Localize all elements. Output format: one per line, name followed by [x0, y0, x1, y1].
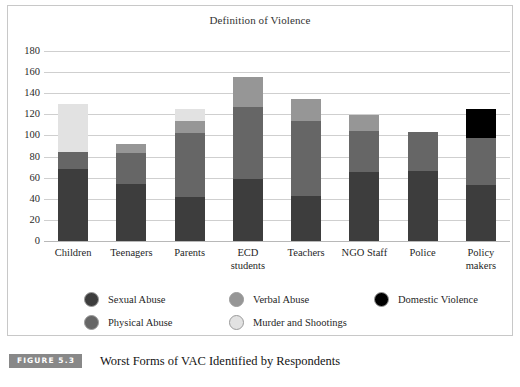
- x-axis-label-line: Parents: [161, 246, 219, 259]
- x-axis-label-line: ECD: [219, 246, 277, 259]
- x-axis-label: Police: [394, 246, 452, 259]
- stacked-bar: [291, 99, 321, 242]
- y-tick-label-100: 100: [6, 130, 40, 141]
- stacked-bar: [175, 109, 205, 241]
- bar-group: [349, 51, 379, 241]
- stacked-bar: [349, 115, 379, 241]
- bar-group: [291, 51, 321, 241]
- bar-segment: [408, 132, 438, 171]
- chart-legend: Sexual AbusePhysical AbuseVerbal AbuseMu…: [44, 292, 494, 336]
- x-axis-label-line: Children: [44, 246, 102, 259]
- y-tick-label-120: 120: [6, 109, 40, 120]
- bar-segment: [58, 169, 88, 241]
- legend-label: Verbal Abuse: [253, 294, 309, 305]
- legend-item[interactable]: Domestic Violence: [374, 292, 478, 307]
- x-axis-label-line: NGO Staff: [335, 246, 393, 259]
- bar-segment: [116, 144, 146, 154]
- y-axis-ticks: 020406080100120140160180: [4, 51, 40, 241]
- bar-segment: [349, 115, 379, 131]
- gridline-0: [44, 241, 510, 242]
- legend-item[interactable]: Physical Abuse: [84, 315, 172, 330]
- stacked-bar: [466, 109, 496, 241]
- bar-segment: [408, 171, 438, 241]
- bar-segment: [116, 184, 146, 241]
- x-axis-label: NGO Staff: [335, 246, 393, 259]
- legend-item[interactable]: Verbal Abuse: [229, 292, 309, 307]
- figure-root: Definition of Violence 02040608010012014…: [0, 0, 520, 387]
- legend-swatch-icon: [229, 315, 244, 330]
- stacked-bar: [408, 132, 438, 241]
- legend-swatch-icon: [229, 292, 244, 307]
- legend-label: Physical Abuse: [108, 317, 172, 328]
- legend-label: Murder and Shootings: [253, 317, 347, 328]
- x-axis-label-line: makers: [452, 259, 510, 272]
- stacked-bar: [233, 77, 263, 241]
- bar-segment: [175, 109, 205, 121]
- y-tick-label-40: 40: [6, 194, 40, 205]
- bar-segment: [58, 104, 88, 153]
- legend-item[interactable]: Sexual Abuse: [84, 292, 165, 307]
- y-tick-label-0: 0: [6, 236, 40, 247]
- bar-segment: [116, 153, 146, 184]
- bar-segment: [175, 121, 205, 134]
- bar-segment: [349, 172, 379, 241]
- legend-swatch-icon: [84, 292, 99, 307]
- y-tick-label-80: 80: [6, 151, 40, 162]
- y-tick-label-60: 60: [6, 172, 40, 183]
- legend-swatch-icon: [84, 315, 99, 330]
- bar-segment: [175, 197, 205, 241]
- y-tick-label-160: 160: [6, 67, 40, 78]
- chart-title: Definition of Violence: [0, 14, 520, 26]
- bar-segment: [466, 109, 496, 138]
- legend-label: Sexual Abuse: [108, 294, 165, 305]
- stacked-bar: [116, 144, 146, 241]
- bar-group: [408, 51, 438, 241]
- bar-segment: [233, 179, 263, 241]
- y-tick-label-140: 140: [6, 88, 40, 99]
- bar-segment: [233, 107, 263, 179]
- x-axis-label: Children: [44, 246, 102, 259]
- bar-segment: [58, 152, 88, 169]
- x-axis-label: Parents: [161, 246, 219, 259]
- legend-item[interactable]: Murder and Shootings: [229, 315, 347, 330]
- bar-segment: [291, 121, 321, 196]
- y-tick-label-180: 180: [6, 46, 40, 57]
- chart-bars: [44, 51, 510, 241]
- x-axis-label-line: Police: [394, 246, 452, 259]
- legend-label: Domestic Violence: [398, 294, 478, 305]
- bar-group: [175, 51, 205, 241]
- bar-segment: [291, 196, 321, 241]
- figure-caption-text: Worst Forms of VAC Identified by Respond…: [100, 354, 340, 369]
- bar-group: [116, 51, 146, 241]
- x-axis-label-line: Policy: [452, 246, 510, 259]
- x-axis-label: Teachers: [277, 246, 335, 259]
- bar-segment: [349, 131, 379, 172]
- y-tick-label-20: 20: [6, 215, 40, 226]
- x-axis-label-line: Teachers: [277, 246, 335, 259]
- x-axis-label: Policymakers: [452, 246, 510, 272]
- bar-segment: [233, 77, 263, 107]
- bar-group: [233, 51, 263, 241]
- bar-segment: [466, 138, 496, 186]
- x-axis-label: Teenagers: [102, 246, 160, 259]
- figure-number-badge: FIGURE 5.3: [9, 354, 82, 368]
- bar-group: [466, 51, 496, 241]
- x-axis-label-line: Teenagers: [102, 246, 160, 259]
- bar-group: [58, 51, 88, 241]
- stacked-bar: [58, 104, 88, 241]
- legend-swatch-icon: [374, 292, 389, 307]
- bar-segment: [291, 99, 321, 121]
- bar-segment: [175, 133, 205, 196]
- figure-caption-row: FIGURE 5.3 Worst Forms of VAC Identified…: [9, 350, 509, 372]
- bar-segment: [466, 185, 496, 241]
- x-axis-labels: ChildrenTeenagersParentsECDstudentsTeach…: [44, 246, 510, 288]
- x-axis-label-line: students: [219, 259, 277, 272]
- x-axis-label: ECDstudents: [219, 246, 277, 272]
